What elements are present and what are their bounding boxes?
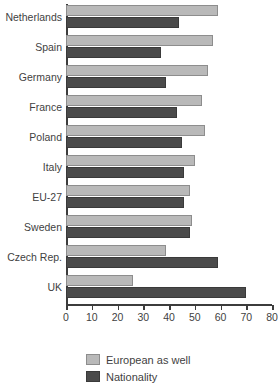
legend-item: Nationality xyxy=(86,369,190,384)
bar-group xyxy=(66,94,272,124)
bar-european-as-well xyxy=(66,5,218,16)
x-tick-mark xyxy=(143,305,145,310)
x-tick-label: 60 xyxy=(215,311,227,323)
category-label: Netherlands xyxy=(0,12,62,23)
legend-swatch-dark xyxy=(86,371,100,382)
bar-european-as-well xyxy=(66,35,213,46)
x-axis-ticks: 01020304050607080 xyxy=(66,305,278,327)
category-axis-labels: NetherlandsSpainGermanyFrancePolandItaly… xyxy=(0,4,62,304)
legend-swatch-light xyxy=(86,354,100,365)
x-tick-label: 10 xyxy=(86,311,98,323)
bar-nationality xyxy=(66,287,246,298)
bar-group xyxy=(66,184,272,214)
category-label: EU-27 xyxy=(0,192,62,203)
bar-european-as-well xyxy=(66,125,205,136)
bar-group xyxy=(66,274,272,304)
category-label: Poland xyxy=(0,132,62,143)
bar-nationality xyxy=(66,77,166,88)
category-label: Sweden xyxy=(0,222,62,233)
x-tick-label: 30 xyxy=(137,311,149,323)
bar-nationality xyxy=(66,257,218,268)
bar-european-as-well xyxy=(66,155,195,166)
x-tick-mark xyxy=(169,305,171,310)
chart-legend: European as wellNationality xyxy=(86,352,190,386)
bar-group xyxy=(66,64,272,94)
legend-label: European as well xyxy=(106,354,190,366)
x-tick-mark xyxy=(118,305,120,310)
bar-nationality xyxy=(66,167,184,178)
bar-european-as-well xyxy=(66,215,192,226)
x-tick-mark xyxy=(92,305,94,310)
x-tick-mark xyxy=(246,305,248,310)
category-label: Germany xyxy=(0,72,62,83)
category-label: Italy xyxy=(0,162,62,173)
bar-chart-figure: NetherlandsSpainGermanyFrancePolandItaly… xyxy=(0,0,278,390)
bar-nationality xyxy=(66,197,184,208)
bar-european-as-well xyxy=(66,95,202,106)
bar-nationality xyxy=(66,137,182,148)
category-label: UK xyxy=(0,282,62,293)
x-tick-label: 50 xyxy=(189,311,201,323)
x-tick-mark xyxy=(66,305,68,310)
bar-european-as-well xyxy=(66,275,133,286)
bar-european-as-well xyxy=(66,245,166,256)
x-tick-mark xyxy=(221,305,223,310)
x-tick-label: 70 xyxy=(240,311,252,323)
bar-nationality xyxy=(66,107,177,118)
bar-nationality xyxy=(66,227,190,238)
category-label: Czech Rep. xyxy=(0,252,62,263)
legend-label: Nationality xyxy=(106,371,157,383)
bar-group xyxy=(66,34,272,64)
bar-group xyxy=(66,154,272,184)
x-tick-label: 0 xyxy=(63,311,69,323)
bar-european-as-well xyxy=(66,185,190,196)
x-tick-mark xyxy=(195,305,197,310)
x-tick-label: 40 xyxy=(163,311,175,323)
plot-area xyxy=(66,4,272,304)
legend-item: European as well xyxy=(86,352,190,367)
x-tick-mark xyxy=(272,305,274,310)
x-tick-label: 20 xyxy=(112,311,124,323)
category-label: France xyxy=(0,102,62,113)
bar-nationality xyxy=(66,47,161,58)
bar-group xyxy=(66,244,272,274)
bar-group xyxy=(66,124,272,154)
bar-group xyxy=(66,214,272,244)
bar-nationality xyxy=(66,17,179,28)
bar-european-as-well xyxy=(66,65,208,76)
category-label: Spain xyxy=(0,42,62,53)
x-tick-label: 80 xyxy=(266,311,278,323)
bar-group xyxy=(66,4,272,34)
